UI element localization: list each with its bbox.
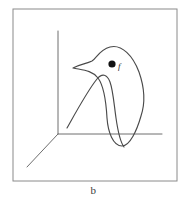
figure-canvas: f [0, 0, 187, 205]
point-marker-f [108, 60, 115, 67]
figure-caption: b [0, 184, 187, 196]
figure-panel: f b [0, 0, 187, 205]
